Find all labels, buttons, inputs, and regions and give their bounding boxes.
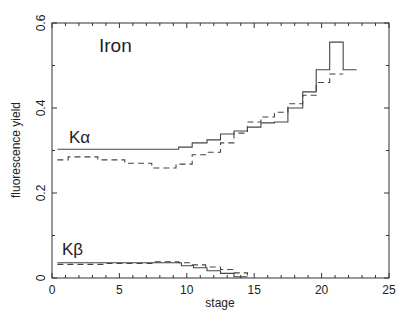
dashed-step-line	[57, 262, 247, 276]
x-tick-label: 5	[116, 283, 123, 297]
x-tick-label: 20	[315, 283, 329, 297]
x-tick-label: 15	[248, 283, 262, 297]
x-tick-label: 25	[382, 283, 396, 297]
axis-ticks: 051015202500.20.40.6	[34, 14, 396, 297]
x-tick-label: 10	[180, 283, 194, 297]
x-axis-label: stage	[205, 296, 235, 310]
y-tick-label: 0	[34, 274, 48, 281]
solid-step-line	[57, 263, 247, 277]
y-tick-label: 0.4	[34, 99, 48, 116]
annotation-k-beta: Kβ	[62, 240, 83, 259]
annotation-iron: Iron	[99, 35, 132, 56]
fluorescence-yield-chart: 051015202500.20.40.6 stage fluorescence …	[0, 0, 406, 319]
series-lines	[57, 42, 356, 277]
dashed-step-line	[57, 74, 343, 168]
annotation-k-alpha: Kα	[69, 128, 90, 147]
x-tick-label: 0	[49, 283, 56, 297]
y-tick-label: 0.6	[34, 14, 48, 31]
y-axis-label: fluorescence yield	[9, 102, 23, 198]
y-tick-label: 0.2	[34, 184, 48, 201]
axis-labels: stage fluorescence yield Iron Kα Kβ	[9, 35, 235, 310]
